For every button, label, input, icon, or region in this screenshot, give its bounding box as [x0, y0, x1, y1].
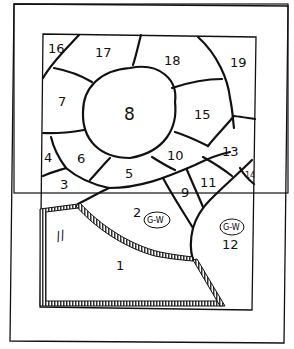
region-label-1: 1: [116, 258, 124, 273]
region-label-3: 3: [60, 177, 68, 192]
annotation-region-2: G-W: [147, 216, 164, 225]
region-label-12: 12: [222, 237, 239, 252]
region-label-5: 5: [125, 166, 133, 181]
region-label-15: 15: [194, 107, 211, 122]
region-label-18: 18: [164, 53, 181, 68]
region-label-14: 14: [245, 171, 255, 180]
region-label-11: 11: [200, 175, 217, 190]
region-label-8: 8: [124, 104, 135, 124]
annotation-region-12: G-W: [223, 223, 240, 232]
region-label-10: 10: [167, 148, 184, 163]
region-label-2: 2: [133, 205, 141, 220]
region-label-17: 17: [95, 45, 112, 60]
stained-glass-diagram: 16 17 18 19 7 8 15 4 6 10 13 5 3 9 11 14…: [0, 0, 294, 349]
region-label-13: 13: [222, 144, 239, 159]
region-label-4: 4: [44, 150, 52, 165]
region-label-7: 7: [58, 94, 66, 109]
region-label-16: 16: [48, 41, 65, 56]
region-label-9: 9: [181, 185, 189, 200]
region-label-6: 6: [77, 151, 85, 166]
margin-mark: //: [54, 227, 67, 244]
region-label-19: 19: [230, 55, 247, 70]
